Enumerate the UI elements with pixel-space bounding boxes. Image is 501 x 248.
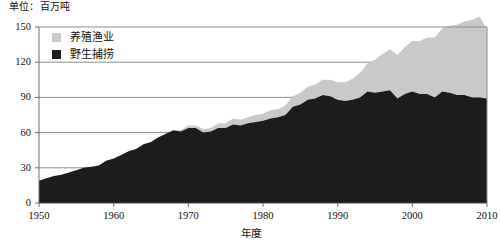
aquaculture-swatch <box>52 33 61 42</box>
y-tick-label: 150 <box>1 21 31 32</box>
x-tick-label: 1950 <box>17 210 61 221</box>
y-tick-label: 60 <box>1 127 31 138</box>
y-tick-label: 120 <box>1 56 31 67</box>
legend-label-aquaculture: 养殖渔业 <box>70 31 114 44</box>
x-tick-label: 1990 <box>316 210 360 221</box>
y-tick-label: 0 <box>1 197 31 208</box>
x-tick-label: 2010 <box>465 210 501 221</box>
legend-item-aquaculture: 养殖渔业 <box>52 29 172 45</box>
legend-item-wild-capture: 野生捕捞 <box>52 46 172 62</box>
x-tick-label: 1960 <box>92 210 136 221</box>
y-tick-label: 30 <box>1 162 31 173</box>
x-tick-label: 2000 <box>390 210 434 221</box>
x-tick-marks <box>39 203 487 207</box>
legend: 养殖渔业 野生捕捞 <box>52 29 172 63</box>
fisheries-production-chart: 单位：百万吨 养殖渔业 野生捕捞 030609012 <box>0 0 501 248</box>
x-axis-title: 年度 <box>0 228 501 240</box>
legend-label-wild-capture: 野生捕捞 <box>70 48 114 61</box>
y-tick-marks <box>35 27 39 203</box>
x-tick-label: 1980 <box>241 210 285 221</box>
wild-capture-swatch <box>52 50 61 59</box>
y-tick-label: 90 <box>1 91 31 102</box>
x-tick-label: 1970 <box>166 210 210 221</box>
